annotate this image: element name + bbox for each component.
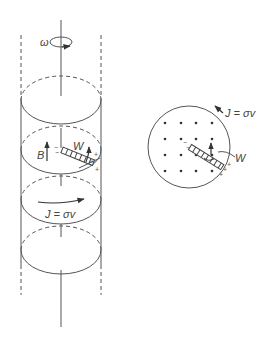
magnetic-field-label: B xyxy=(37,149,44,161)
strip-width-label: W xyxy=(73,140,85,152)
strip-width-label-top-view: W xyxy=(235,152,247,164)
current-label: J = σv xyxy=(44,208,77,220)
negative-charge-top-b: − xyxy=(186,144,190,151)
positive-charge-1: + xyxy=(94,151,98,158)
current-label-top-view: J = σv xyxy=(224,107,257,119)
positive-charge-3: + xyxy=(95,166,99,173)
positive-charge-top-c: + xyxy=(219,171,223,178)
strip-pointer-line-top-view xyxy=(218,152,235,157)
negative-charge-2: − xyxy=(55,149,59,156)
hall-strip-top-view xyxy=(188,144,223,169)
cylinder-figure: ω B xyxy=(21,20,101,327)
current-arrow-icon xyxy=(38,199,84,203)
positive-charge-top-b: + xyxy=(227,161,231,168)
omega-label: ω xyxy=(40,36,49,48)
top-view-figure: J = σv W − − + + + W xyxy=(148,106,257,188)
current-arrow-icon-top-view xyxy=(215,106,223,113)
diagram-canvas: ω B xyxy=(0,0,265,342)
